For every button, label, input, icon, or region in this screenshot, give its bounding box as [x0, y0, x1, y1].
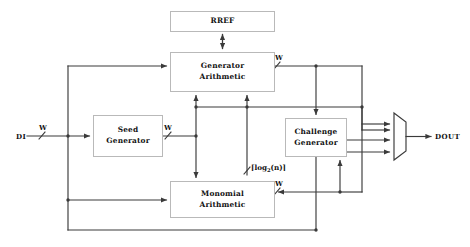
- block-monomial-arithmetic[interactable]: Monomial Arithmetic: [170, 181, 275, 218]
- bus-width-label-seed-output: W: [164, 123, 172, 132]
- block-monomial-arithmetic-label-line1: Monomial: [201, 189, 244, 200]
- block-rref[interactable]: RREF: [170, 11, 275, 32]
- log2n-suffix: (n)⌉: [271, 163, 286, 172]
- block-seed-generator[interactable]: Seed Generator: [93, 115, 163, 157]
- block-seed-generator-label-line1: Seed: [118, 125, 139, 136]
- block-monomial-arithmetic-label-line2: Arithmetic: [200, 200, 246, 211]
- block-generator-arithmetic-label-line1: Generator: [201, 61, 244, 72]
- port-label-di: DI: [16, 132, 26, 141]
- block-diagram-canvas: RREF Generator Arithmetic Seed Generator…: [0, 0, 470, 247]
- block-challenge-generator-label-line1: Challenge: [295, 127, 338, 138]
- bus-width-label-di: W: [39, 123, 47, 132]
- port-label-dout: DOUT: [435, 132, 460, 141]
- log2n-prefix: ⌈log: [251, 163, 267, 172]
- block-challenge-generator[interactable]: Challenge Generator: [285, 118, 347, 157]
- bus-width-label-generator-output: W: [275, 53, 283, 62]
- bus-width-label-log2n: ⌈log2(n)⌉: [251, 163, 286, 173]
- block-generator-arithmetic[interactable]: Generator Arithmetic: [170, 52, 275, 92]
- block-seed-generator-label-line2: Generator: [106, 136, 149, 147]
- block-generator-arithmetic-label-line2: Arithmetic: [200, 72, 246, 83]
- block-challenge-generator-label-line2: Generator: [294, 138, 337, 149]
- block-rref-label: RREF: [211, 16, 235, 27]
- bus-width-label-monomial-output: W: [275, 179, 283, 188]
